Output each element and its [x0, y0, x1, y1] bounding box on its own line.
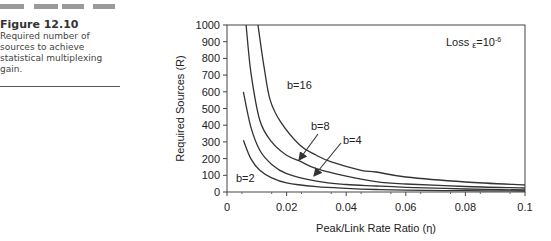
y-tick-label: 200 [202, 153, 220, 165]
chart-labels: b=16 b=8 b=4 b=2 Loss ε=10-6 [236, 36, 501, 184]
curve-b8 [246, 25, 525, 188]
y-tick-label: 400 [202, 119, 220, 131]
y-tick-label: 100 [202, 169, 220, 181]
curve-label-b8: b=8 [311, 120, 330, 132]
x-axis-title: Peak/Link Rate Ratio (η) [316, 222, 436, 234]
y-tick-label: 700 [202, 69, 220, 81]
y-tick-label: 900 [202, 36, 220, 48]
y-tick-label: 800 [202, 52, 220, 64]
y-tick-label: 0 [214, 186, 220, 198]
curve-label-b4: b=4 [343, 134, 362, 146]
x-tick-label: 0.02 [276, 201, 297, 213]
curve-b4 [243, 92, 525, 190]
curve-label-b16: b=16 [287, 79, 312, 91]
y-tick-label: 500 [202, 103, 220, 115]
x-tick-label: 0.1 [517, 201, 532, 213]
plot-area [227, 25, 525, 192]
y-tick-label: 300 [202, 136, 220, 148]
curve-label-b2: b=2 [236, 172, 255, 184]
y-tick-label: 1000 [196, 19, 220, 31]
x-tick-label: 0.08 [455, 201, 476, 213]
chart-curves [243, 25, 525, 191]
x-tick-label: 0.04 [335, 201, 356, 213]
y-tick-label: 600 [202, 86, 220, 98]
y-axis-title: Required Sources (R) [174, 55, 186, 161]
line-chart: 0100200300400500600700800900100000.020.0… [0, 0, 551, 241]
x-tick-label: 0.06 [395, 201, 416, 213]
loss-annotation: Loss ε=10-6 [446, 36, 501, 50]
chart-axes: 0100200300400500600700800900100000.020.0… [174, 19, 533, 234]
x-tick-label: 0 [224, 201, 230, 213]
arrow-b4 [314, 143, 341, 176]
